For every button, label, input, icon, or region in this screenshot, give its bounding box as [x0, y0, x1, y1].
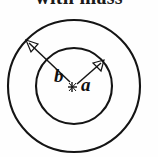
- label-outer-radius-b: b: [54, 65, 64, 86]
- center-cross-icon: [68, 82, 77, 92]
- label-inner-radius-a: a: [81, 74, 91, 95]
- concentric-circles-diagram: b a: [0, 0, 158, 157]
- figure-container: with mass b a: [0, 0, 158, 157]
